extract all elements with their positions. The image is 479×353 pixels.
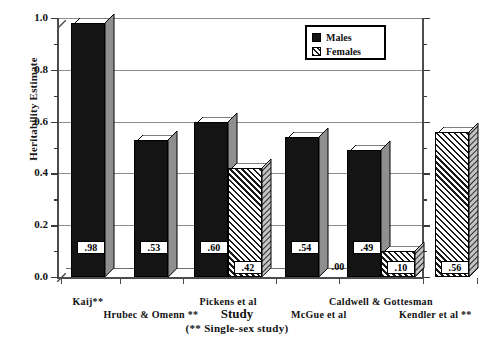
bar-side-face: [262, 159, 271, 277]
bar[interactable]: [134, 131, 177, 277]
legend-item-females: Females: [312, 45, 361, 58]
x-axis-subtitle: (** Single-sex study): [0, 322, 474, 334]
bar[interactable]: [71, 14, 114, 277]
y-axis-tick-label: 0.2: [18, 218, 48, 230]
x-axis-category-label: Hrubec & Omenn **: [104, 309, 199, 320]
x-axis-tick: [61, 278, 62, 284]
x-axis-tick: [339, 278, 340, 284]
legend-item-males: Males: [312, 31, 352, 44]
bar-value-label: .60: [200, 241, 228, 254]
y-axis-tick-label: 0.0: [18, 270, 48, 282]
legend-label-females: Females: [326, 46, 361, 57]
x-axis-tick: [477, 278, 478, 284]
y-axis-tick: [54, 148, 58, 149]
bar-front-face: [134, 140, 168, 277]
bar-front-face: [435, 132, 469, 277]
y-axis-tick: [51, 225, 58, 226]
y-axis-tick-label: 0.6: [18, 115, 48, 127]
bar-value-label: .53: [140, 241, 168, 254]
bar-side-face: [415, 242, 424, 277]
x-axis-category-label: Caldwell & Gottesman: [329, 296, 433, 307]
legend-label-males: Males: [326, 32, 352, 43]
bar-side-face: [168, 131, 177, 277]
axis-depth-edge-top: [57, 15, 66, 24]
legend-swatch-females-icon: [312, 47, 321, 56]
x-axis-category-label: McGue et al: [291, 309, 347, 320]
x-axis-tick: [120, 278, 121, 284]
y-axis-tick: [51, 122, 58, 123]
y-axis-tick-label: 1.0: [18, 11, 48, 23]
y-axis-tick-right: [423, 44, 427, 45]
x-axis-category-label: Pickens et al: [200, 296, 257, 307]
x-axis-tick: [276, 278, 277, 284]
x-axis-category-label: Kaij**: [73, 296, 104, 307]
x-axis-category-label: Kendler et al **: [399, 309, 472, 320]
bar-value-label: .10: [387, 261, 415, 274]
x-axis-tick: [423, 278, 424, 284]
y-axis-tick: [54, 96, 58, 97]
y-axis-tick-right: [423, 225, 430, 226]
bar-front-face: [347, 150, 381, 277]
y-axis-tick: [51, 173, 58, 174]
y-axis-tick-label: 0.4: [18, 166, 48, 178]
axis-depth-edge: [57, 268, 66, 277]
bar-front-face: [71, 23, 105, 277]
chart-legend: Males Females: [305, 25, 386, 60]
y-axis-tick: [51, 277, 58, 278]
bar-side-face: [319, 128, 328, 277]
y-axis-tick-right: [423, 122, 430, 123]
y-axis-tick: [54, 251, 58, 252]
x-axis-tick: [183, 278, 184, 284]
y-axis-tick-right: [423, 199, 427, 200]
y-axis-tick: [51, 18, 58, 19]
bar[interactable]: [435, 123, 478, 277]
y-axis-tick-right: [423, 173, 430, 174]
bar-front-face: [285, 137, 319, 277]
y-axis-tick: [51, 70, 58, 71]
y-axis-tick-right: [423, 96, 427, 97]
bar-side-face: [469, 123, 478, 277]
y-axis-tick-right: [423, 18, 430, 19]
y-axis-tick-right: [423, 148, 427, 149]
y-axis-tick: [54, 199, 58, 200]
bar-side-face: [105, 14, 114, 277]
bar-value-label: .56: [441, 261, 469, 274]
bar-value-label: .49: [353, 241, 381, 254]
bar[interactable]: [285, 128, 328, 277]
legend-swatch-males-icon: [312, 33, 321, 42]
bar[interactable]: [228, 159, 271, 277]
bar-value-label: .42: [234, 261, 262, 274]
bar-value-label: .98: [77, 241, 105, 254]
bar-value-label: .54: [291, 241, 319, 254]
y-axis-tick-label: 0.8: [18, 63, 48, 75]
y-axis-tick: [54, 44, 58, 45]
y-axis-tick-right: [423, 70, 430, 71]
